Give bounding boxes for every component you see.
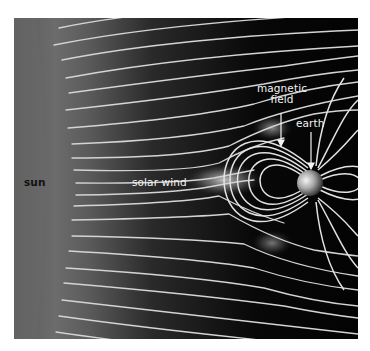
magnetic-field-label-line2: field — [247, 94, 317, 105]
earth-label: earth — [296, 118, 324, 129]
sun-label: sun — [24, 177, 46, 188]
earth-globe — [297, 170, 323, 196]
magnetic-field-label: magnetic field — [247, 83, 317, 105]
magnetosphere-diagram: sun solar wind magnetic field earth — [14, 18, 358, 339]
solar-wind-label: solar wind — [132, 177, 187, 188]
